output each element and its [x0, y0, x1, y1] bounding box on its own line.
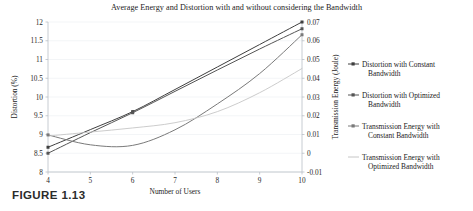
- svg-text:0.04: 0.04: [307, 74, 320, 83]
- svg-text:5: 5: [89, 176, 93, 185]
- y-axis-title: Distortion (%): [10, 75, 19, 118]
- y2-axis-title: Transmission Energy (Joule): [331, 54, 340, 140]
- series-marker: [301, 21, 304, 24]
- chart-plot: 88.599.51010.51111.512 -0.0100.010.020.0…: [0, 0, 473, 211]
- x-axis-tick-labels: 45678910: [46, 176, 306, 185]
- series-marker: [47, 146, 50, 149]
- svg-text:0.02: 0.02: [307, 111, 320, 120]
- svg-text:0: 0: [307, 149, 311, 158]
- legend-item-label: Transmission Energy with: [362, 122, 440, 131]
- data-series-group: [48, 22, 302, 153]
- svg-text:0.03: 0.03: [307, 93, 320, 102]
- y-axis-tick-labels: 88.599.51010.51111.512: [30, 18, 43, 177]
- svg-text:12: 12: [36, 18, 44, 27]
- tick-marks-group: [46, 22, 305, 175]
- svg-text:10: 10: [298, 176, 306, 185]
- legend-item-label: Distortion with Optimized: [362, 91, 440, 100]
- svg-text:11: 11: [36, 55, 43, 64]
- legend-item-label: Distortion with Constant: [362, 60, 436, 69]
- svg-text:6: 6: [131, 176, 135, 185]
- figure-caption: FIGURE 1.13: [12, 189, 85, 201]
- svg-text:4: 4: [46, 176, 50, 185]
- series-marker: [47, 152, 50, 155]
- svg-text:9.5: 9.5: [34, 111, 43, 120]
- legend-item-label: Constant Bandwidth: [368, 131, 429, 140]
- svg-text:0.07: 0.07: [307, 18, 320, 27]
- legend-item-label: Optimized Bandwidth: [368, 162, 434, 171]
- series-marker: [301, 33, 304, 36]
- svg-text:8: 8: [39, 168, 43, 177]
- svg-text:0.01: 0.01: [307, 130, 320, 139]
- figure-container: Average Energy and Distortion with and w…: [0, 0, 473, 211]
- svg-text:11.5: 11.5: [31, 36, 44, 45]
- svg-text:0.05: 0.05: [307, 55, 320, 64]
- svg-text:8: 8: [216, 176, 220, 185]
- svg-text:10.5: 10.5: [30, 74, 43, 83]
- chart-legend: Distortion with ConstantBandwidthDistort…: [348, 60, 440, 171]
- legend-item-label: Transmission Energy with: [362, 153, 440, 162]
- gridlines-group: [48, 22, 302, 172]
- y2-axis-tick-labels: -0.0100.010.020.030.040.050.060.07: [307, 18, 323, 177]
- svg-text:10: 10: [36, 93, 44, 102]
- svg-text:-0.01: -0.01: [307, 168, 323, 177]
- svg-text:7: 7: [173, 176, 177, 185]
- series-marker: [301, 27, 304, 30]
- svg-text:0.06: 0.06: [307, 36, 320, 45]
- svg-text:8.5: 8.5: [34, 149, 43, 158]
- svg-text:9: 9: [39, 130, 43, 139]
- series-line-3: [48, 69, 302, 137]
- svg-text:9: 9: [258, 176, 262, 185]
- legend-item-label: Bandwidth: [368, 69, 401, 78]
- x-axis-title: Number of Users: [150, 187, 201, 196]
- series-marker: [131, 111, 134, 114]
- legend-item-label: Bandwidth: [368, 100, 401, 109]
- series-marker: [47, 133, 50, 136]
